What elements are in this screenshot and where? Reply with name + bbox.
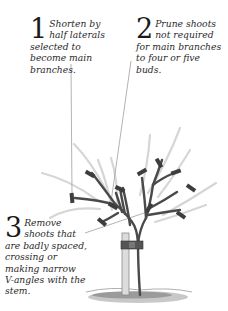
annotation-number: 3 bbox=[5, 217, 22, 239]
annotation-number: 1 bbox=[30, 18, 47, 40]
annotation-number: 2 bbox=[136, 18, 153, 40]
annotation-3: 3 Remove shoots that are badly spaced, c… bbox=[5, 217, 87, 297]
annotation-1: 1 Shorten by half laterals selected to b… bbox=[30, 18, 118, 75]
pruning-diagram: 1 Shorten by half laterals selected to b… bbox=[0, 0, 228, 311]
annotation-2: 2 Prune shoots not required for main bra… bbox=[136, 18, 224, 75]
removed-shoots bbox=[42, 128, 216, 222]
tree-tie bbox=[121, 241, 143, 249]
